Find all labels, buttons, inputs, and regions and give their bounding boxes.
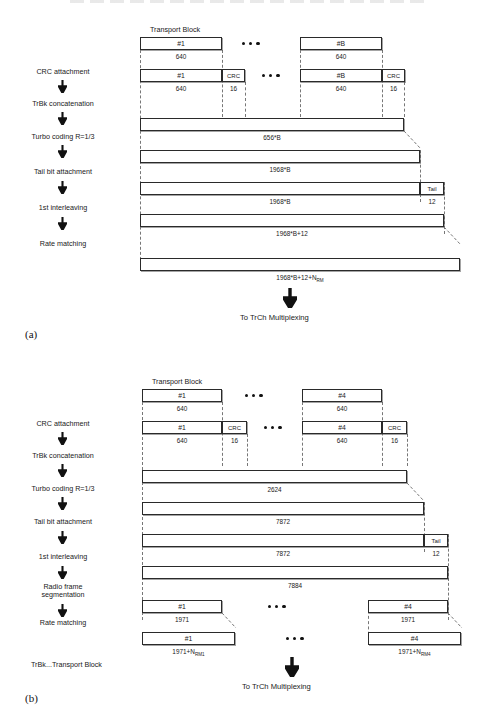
block-tb-last-label: #B: [337, 40, 345, 47]
size-turbo-coded: 1968*B: [140, 166, 420, 173]
guide-b-tb1-right: [222, 402, 223, 466]
guide-b-tail-right: [448, 534, 449, 620]
size-tail: 12: [420, 198, 444, 205]
stage-label-b-turbo-coding: Turbo coding R=1/3: [8, 485, 118, 493]
slant-interleave-to-ratematch: [444, 227, 462, 246]
stage-label-1st-interleaving: 1st interleaving: [8, 204, 118, 212]
block-crc-last-label: #B: [337, 72, 345, 79]
crc-label-b: CRC: [228, 425, 241, 431]
size-interleaved: 1968*B+12: [140, 230, 444, 237]
size-tail-body: 1968*B: [140, 198, 420, 205]
size-b-crc-last-crc: 16: [382, 437, 407, 444]
output-arrow-a: [283, 288, 297, 308]
size-tb-first: 640: [140, 53, 222, 60]
ellipsis-crc-row: [262, 74, 280, 77]
size-b-crc-first-crc: 16: [222, 437, 247, 444]
legend-note: TrBk...Transport Block: [31, 660, 102, 669]
block-interleaved: [140, 214, 444, 227]
size-rate-matched-sub: RM: [317, 278, 324, 283]
block-b-tb-first-label: #1: [178, 392, 186, 399]
block-b-crc-last-crc: CRC: [382, 421, 407, 434]
tail-label-b: Tail: [431, 538, 440, 544]
size-b-ratematched-last: 1971+NRM4: [368, 648, 461, 655]
block-b-tail: Tail: [424, 534, 448, 547]
panel-a-transport-block-title: Transport Block: [150, 25, 200, 34]
size-b-turbo-coded: 7872: [142, 518, 424, 525]
size-concatenated: 656*B: [140, 134, 404, 141]
block-b-turbo-coded: [142, 502, 424, 515]
block-b-crc-first: #1: [142, 421, 222, 434]
guide-crc1-right: [245, 82, 246, 117]
block-concatenated: [140, 118, 404, 131]
block-b-crc-first-label: #1: [178, 424, 186, 431]
slant-concat-to-turbo: [404, 131, 422, 150]
panel-a-caption: (a): [25, 328, 37, 340]
stage-arrow-4: [58, 181, 67, 194]
tail-label: Tail: [427, 186, 436, 192]
size-b-crc-first: 640: [142, 437, 222, 444]
block-b-segment-first: #1: [142, 600, 222, 613]
panel-b: Transport Block CRC attachment TrBk conc…: [0, 355, 479, 715]
guide-b-crc1-right: [247, 434, 248, 466]
size-crc-last: 640: [300, 85, 382, 92]
block-b-ratematched-first-label: #1: [185, 635, 193, 642]
block-b-crc-last-label: #4: [338, 424, 346, 431]
stage-label-b-crc-attachment: CRC attachment: [8, 420, 118, 428]
size-rate-matched-main: 1968*B+12+N: [276, 274, 316, 281]
crc-label: CRC: [227, 73, 240, 79]
stage-arrow-5: [58, 217, 67, 230]
block-b-tb-last: #4: [302, 389, 382, 402]
stage-label-b-1st-interleaving: 1st interleaving: [8, 553, 118, 561]
guide-tbB-right: [382, 50, 383, 117]
stage-label-trbk-concatenation: TrBk concatenation: [8, 100, 118, 108]
block-turbo-coded: [140, 150, 420, 163]
block-b-ratematched-first: #1: [142, 632, 235, 645]
size-b-rm4-main: 1971+N: [398, 648, 421, 655]
block-tail-body: [140, 182, 420, 195]
guide-tbB-left: [300, 50, 301, 117]
ellipsis-b-ratematch-row: [286, 637, 304, 640]
block-b-interleaved: [142, 566, 448, 579]
crc-label-b-last: CRC: [388, 425, 401, 431]
size-b-tail: 12: [424, 550, 448, 557]
guide-b-crc4-right: [407, 434, 408, 466]
slant-b-seg4-to-rm4: [448, 613, 463, 629]
block-b-segment-first-label: #1: [178, 603, 186, 610]
stage-arrow-1: [58, 80, 67, 93]
size-b-rm4-sub: RM4: [421, 652, 431, 657]
stage-label-turbo-coding: Turbo coding R=1/3: [8, 133, 118, 141]
size-b-concatenated: 2624: [142, 486, 407, 493]
stage-arrow-2: [58, 112, 67, 125]
block-crc-first: #1: [140, 69, 222, 82]
size-b-interleaved: 7884: [142, 582, 448, 589]
size-b-segment-first: 1971: [142, 616, 222, 623]
stage-arrow-b-6: [58, 604, 67, 617]
block-tb-last: #B: [300, 37, 382, 50]
stage-arrow-b-1: [58, 432, 67, 445]
panel-b-caption: (b): [25, 692, 38, 704]
block-b-tail-body: [142, 534, 424, 547]
stage-label-rate-matching: Rate matching: [8, 240, 118, 248]
size-b-ratematched-first: 1971+NRM1: [142, 648, 235, 655]
size-rate-matched: 1968*B+12+NRM: [140, 274, 460, 281]
block-b-segment-last: #4: [368, 600, 448, 613]
stage-arrow-b-5: [58, 566, 67, 579]
block-rate-matched: [140, 258, 460, 271]
stage-arrow-b-2: [58, 464, 67, 477]
output-label-a: To TrCh Multiplexing: [240, 313, 309, 322]
ellipsis-b-tb-row: [245, 394, 263, 397]
size-b-segment-last: 1971: [368, 616, 448, 623]
block-b-concatenated: [142, 470, 407, 483]
block-b-crc-first-crc: CRC: [222, 421, 247, 434]
block-tail: Tail: [420, 182, 444, 195]
stage-arrow-b-4: [58, 531, 67, 544]
block-tb-first-label: #1: [177, 40, 185, 47]
crc-label-last: CRC: [387, 73, 400, 79]
stage-label-crc-attachment: CRC attachment: [8, 68, 118, 76]
output-label-b: To TrCh Multiplexing: [242, 682, 311, 691]
guide-b-tb4-right: [382, 402, 383, 466]
size-b-tb-last: 640: [302, 405, 382, 412]
size-b-rm1-sub: RM1: [195, 652, 205, 657]
block-crc-first-crc: CRC: [222, 69, 245, 82]
stage-label-b-trbk-concatenation: TrBk concatenation: [8, 452, 118, 460]
